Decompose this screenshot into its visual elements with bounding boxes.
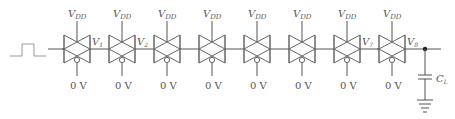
vdd-label: VDD — [68, 8, 87, 21]
inverting-bubble-icon — [299, 57, 304, 62]
input-pulse-icon — [10, 44, 46, 56]
node-voltage-label: V1 — [92, 36, 103, 48]
inverting-bubble-icon — [344, 57, 349, 62]
inverting-bubble-icon — [254, 57, 259, 62]
node-voltage-label: V8 — [407, 36, 418, 48]
vdd-label: VDD — [158, 8, 177, 21]
inverting-bubble-icon — [209, 57, 214, 62]
inverting-bubble-icon — [119, 57, 124, 62]
zero-volt-label: 0 V — [385, 80, 403, 91]
zero-volt-label: 0 V — [205, 80, 223, 91]
transmission-gate-3: VDD0 V — [154, 8, 199, 91]
node-voltage-label: V2 — [137, 36, 148, 48]
zero-volt-label: 0 V — [340, 80, 358, 91]
node-voltage-label: V7 — [362, 36, 373, 48]
zero-volt-label: 0 V — [295, 80, 313, 91]
circuit-diagram: VDD0 VV1VDD0 VV2VDD0 VVDD0 VVDD0 VVDD0 V… — [0, 0, 455, 119]
vdd-label: VDD — [338, 8, 357, 21]
transmission-gate-5: VDD0 V — [244, 8, 289, 91]
transmission-gate-7: VDD0 VV7 — [334, 8, 379, 91]
inverting-bubble-icon — [389, 57, 394, 62]
inverting-bubble-icon — [74, 57, 79, 62]
zero-volt-label: 0 V — [160, 80, 178, 91]
vdd-label: VDD — [293, 8, 312, 21]
zero-volt-label: 0 V — [115, 80, 133, 91]
vdd-label: VDD — [203, 8, 222, 21]
ground-icon — [417, 100, 433, 112]
transmission-gate-2: VDD0 VV2 — [109, 8, 154, 91]
vdd-label: VDD — [383, 8, 402, 21]
zero-volt-label: 0 V — [250, 80, 268, 91]
vdd-label: VDD — [113, 8, 132, 21]
transmission-gate-1: VDD0 VV1 — [62, 8, 109, 91]
inverting-bubble-icon — [164, 57, 169, 62]
load-cap-label: CL — [436, 73, 448, 85]
transmission-gate-6: VDD0 V — [289, 8, 334, 91]
vdd-label: VDD — [248, 8, 267, 21]
zero-volt-label: 0 V — [70, 80, 88, 91]
transmission-gate-4: VDD0 V — [199, 8, 244, 91]
